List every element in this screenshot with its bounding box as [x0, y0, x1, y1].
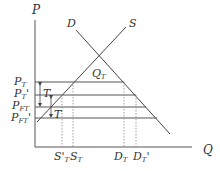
supply-label: S — [129, 18, 137, 29]
tax-label-1: T — [43, 88, 50, 99]
price-label-pft-prime: PFT' — [11, 112, 31, 125]
supply-demand-tax-diagram: P Q D S QT PT PT' PFT PFT' T T S'T ST DT… — [0, 0, 220, 171]
quantity-label-dt-prime: DT' — [133, 151, 150, 164]
quantity-label-st: ST — [70, 151, 82, 164]
quantity-label-st-prime: S'T — [54, 151, 69, 164]
tax-label-2: T — [54, 109, 61, 120]
x-axis-label: Q — [203, 144, 213, 156]
supply-curve — [37, 27, 126, 122]
demand-label: D — [67, 18, 76, 29]
equilibrium-label: QT — [92, 68, 106, 81]
y-axis-label: P — [32, 4, 40, 16]
diagram-lines — [0, 0, 220, 171]
quantity-label-dt: DT — [114, 151, 128, 164]
